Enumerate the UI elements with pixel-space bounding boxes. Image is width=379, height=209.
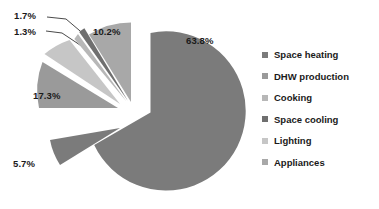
legend-swatch-icon: [262, 52, 268, 58]
legend-item-cooking[interactable]: Cooking: [262, 87, 379, 109]
legend-item-appliances[interactable]: Appliances: [262, 152, 379, 174]
plot-area: 63.8% 17.3% 1.3% 1.7% 5.7% 10.2%: [0, 0, 258, 209]
legend-item-dhw-production[interactable]: DHW production: [262, 66, 379, 88]
legend-label: Lighting: [274, 136, 311, 146]
legend-item-space-cooling[interactable]: Space cooling: [262, 109, 379, 131]
data-label-dhw-production: 17.3%: [33, 91, 60, 101]
legend-swatch-icon: [262, 116, 268, 122]
legend-item-space-heating[interactable]: Space heating: [262, 44, 379, 66]
data-label-cooking: 1.3%: [14, 27, 36, 37]
legend-label: Appliances: [274, 158, 325, 168]
legend-label: DHW production: [274, 72, 349, 82]
legend-swatch-icon: [262, 95, 268, 101]
legend-label: Space heating: [274, 50, 338, 60]
legend-item-lighting[interactable]: Lighting: [262, 130, 379, 152]
data-label-lighting: 5.7%: [13, 159, 35, 169]
legend-swatch-icon: [262, 159, 268, 165]
data-label-space-heating: 63.8%: [186, 36, 213, 46]
legend-label: Space cooling: [274, 115, 338, 125]
data-label-appliances: 10.2%: [93, 27, 120, 37]
legend-swatch-icon: [262, 138, 268, 144]
legend-swatch-icon: [262, 73, 268, 79]
legend-label: Cooking: [274, 93, 312, 103]
pie-graphic: [0, 0, 258, 209]
pie-chart: 63.8% 17.3% 1.3% 1.7% 5.7% 10.2% Space h…: [0, 0, 379, 209]
legend: Space heating DHW production Cooking Spa…: [262, 44, 379, 173]
data-label-space-cooling: 1.7%: [14, 11, 36, 21]
